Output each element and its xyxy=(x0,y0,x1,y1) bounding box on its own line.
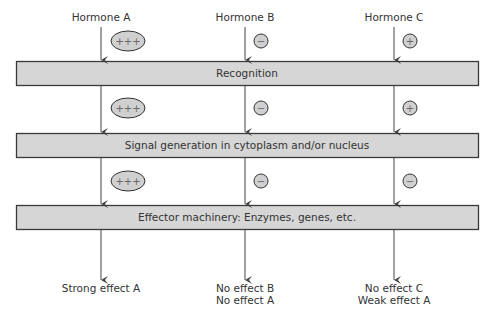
outcome-c-line-1: No effect C xyxy=(365,282,423,294)
hormone-b-label: Hormone B xyxy=(216,11,275,23)
modifier-a-signal: +++ xyxy=(111,98,145,118)
hormone-signal-diagram: Hormone A Hormone B Hormone C Recognitio… xyxy=(0,0,492,316)
svg-text:+++: +++ xyxy=(115,176,140,187)
modifier-c-effector: − xyxy=(403,174,417,188)
stage-signal-generation-label: Signal generation in cytoplasm and/or nu… xyxy=(125,139,369,151)
stage-effector-machinery: Effector machinery: Enzymes, genes, etc. xyxy=(17,206,479,230)
stage-signal-generation: Signal generation in cytoplasm and/or nu… xyxy=(17,134,479,158)
outcome-b-line-1: No effect B xyxy=(216,282,274,294)
modifier-b-effector: − xyxy=(254,174,268,188)
svg-text:−: − xyxy=(257,36,265,47)
outcome-b-line-2: No effect A xyxy=(216,294,275,306)
svg-text:−: − xyxy=(257,176,265,187)
stage-effector-machinery-label: Effector machinery: Enzymes, genes, etc. xyxy=(138,211,356,223)
svg-text:−: − xyxy=(406,176,414,187)
modifier-c-recognition: + xyxy=(403,34,417,48)
modifier-a-effector: +++ xyxy=(111,171,145,191)
hormone-a-label: Hormone A xyxy=(72,11,132,23)
svg-text:−: − xyxy=(257,103,265,114)
modifier-a-recognition: +++ xyxy=(111,31,145,51)
stage-recognition-label: Recognition xyxy=(216,67,278,79)
modifier-b-recognition: − xyxy=(254,34,268,48)
modifier-c-signal: + xyxy=(403,101,417,115)
svg-text:+: + xyxy=(406,103,414,114)
modifier-b-signal: − xyxy=(254,101,268,115)
hormone-c-label: Hormone C xyxy=(365,11,424,23)
svg-text:+: + xyxy=(406,36,414,47)
svg-text:+++: +++ xyxy=(115,36,140,47)
stage-recognition: Recognition xyxy=(17,62,479,86)
svg-text:+++: +++ xyxy=(115,103,140,114)
outcome-c-line-2: Weak effect A xyxy=(358,294,431,306)
outcome-a-line-1: Strong effect A xyxy=(62,282,141,294)
